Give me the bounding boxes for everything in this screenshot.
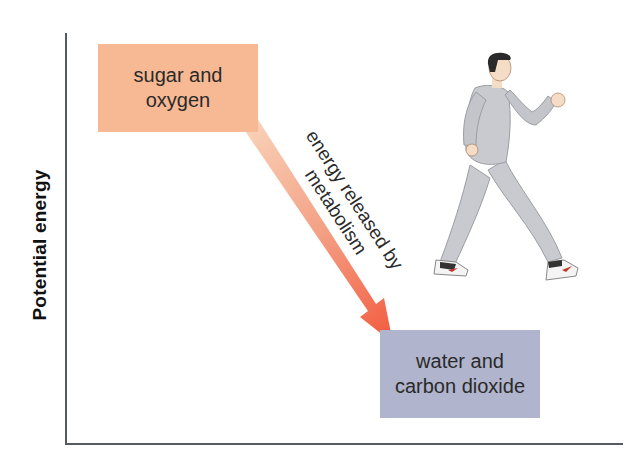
walking-person-icon bbox=[434, 53, 578, 280]
reactants-label-line2: oxygen bbox=[134, 88, 223, 113]
products-label-line2: carbon dioxide bbox=[395, 374, 525, 399]
reactants-label-line1: sugar and bbox=[134, 63, 223, 88]
reactants-box: sugar and oxygen bbox=[98, 44, 258, 132]
products-label-line1: water and bbox=[395, 349, 525, 374]
products-box: water and carbon dioxide bbox=[380, 330, 540, 418]
